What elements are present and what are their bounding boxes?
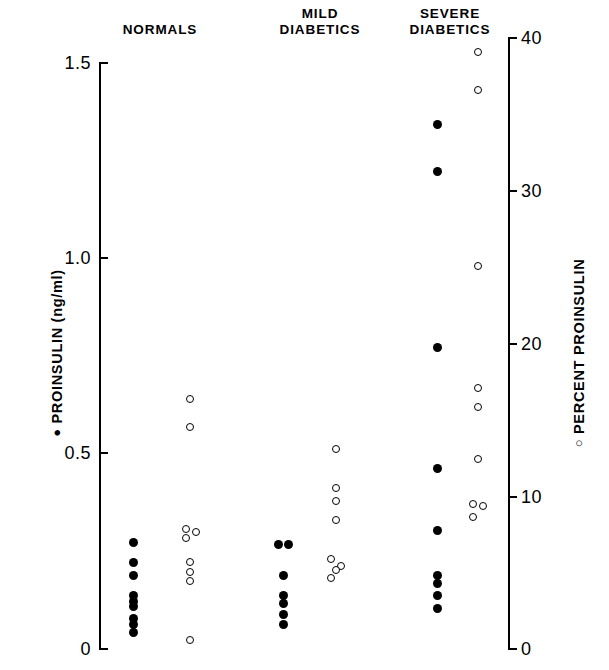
data-point (182, 534, 190, 542)
data-point (474, 384, 482, 392)
data-point (192, 528, 200, 536)
filled-circle-icon: ● (49, 428, 64, 437)
data-point (129, 571, 138, 580)
data-point (274, 540, 283, 549)
data-point (332, 445, 340, 453)
data-point (182, 525, 190, 533)
data-point (474, 403, 482, 411)
left-axis-title-text: PROINSULIN (ng/ml) (49, 269, 65, 428)
left-axis-top-cap (99, 62, 108, 64)
left-axis-tick-0.5 (99, 452, 108, 454)
data-point (327, 574, 335, 582)
data-point (186, 423, 194, 431)
data-point (186, 395, 194, 403)
data-point (433, 526, 442, 535)
data-point (332, 566, 340, 574)
data-point (433, 120, 442, 129)
data-point (479, 502, 487, 510)
right-axis-title-text: PERCENT PROINSULIN (571, 259, 587, 439)
data-point (279, 610, 288, 619)
open-circle-icon: ○ (571, 439, 586, 448)
data-point (186, 558, 194, 566)
data-point (129, 558, 138, 567)
right-axis-bottom-cap (508, 648, 517, 650)
data-point (279, 599, 288, 608)
data-point (186, 636, 194, 644)
data-point (327, 555, 335, 563)
data-point (186, 577, 194, 585)
data-point (474, 455, 482, 463)
data-point (433, 591, 442, 600)
right-tick-label-30: 30 (521, 181, 581, 202)
data-point (284, 540, 293, 549)
data-point (332, 516, 340, 524)
right-tick-label-0: 0 (521, 639, 581, 660)
left-tick-label-0: 0 (29, 639, 91, 660)
data-point (469, 500, 477, 508)
data-point (279, 571, 288, 580)
left-axis-bottom-cap (99, 648, 108, 650)
data-point (332, 497, 340, 505)
data-point (186, 568, 194, 576)
data-point (474, 262, 482, 270)
data-point (279, 620, 288, 629)
data-point (433, 167, 442, 176)
data-point (129, 628, 138, 637)
data-point (433, 464, 442, 473)
data-point (474, 48, 482, 56)
data-point (433, 343, 442, 352)
data-point (474, 86, 482, 94)
data-point (433, 604, 442, 613)
left-tick-label-1.5: 1.5 (29, 53, 91, 74)
left-axis-spine (99, 62, 101, 650)
data-point (433, 579, 442, 588)
right-axis-top-cap (508, 37, 517, 39)
left-axis-title: ● PROINSULIN (ng/ml) (49, 203, 65, 503)
right-axis-tick-20 (508, 343, 517, 345)
left-axis-tick-1.0 (99, 257, 108, 259)
proinsulin-dot-plot-figure: NORMALS MILD DIABETICS SEVERE DIABETICS … (0, 0, 609, 670)
data-point (129, 538, 138, 547)
group-header-normals: NORMALS (95, 22, 225, 38)
right-axis-tick-10 (508, 496, 517, 498)
data-point (129, 602, 138, 611)
data-point (469, 513, 477, 521)
right-tick-label-40: 40 (521, 28, 581, 49)
right-axis-title: ○ PERCENT PROINSULIN (571, 203, 587, 503)
group-header-mild-diabetics: MILD DIABETICS (255, 6, 385, 38)
group-header-severe-diabetics: SEVERE DIABETICS (370, 6, 530, 38)
data-point (332, 484, 340, 492)
right-axis-tick-30 (508, 190, 517, 192)
